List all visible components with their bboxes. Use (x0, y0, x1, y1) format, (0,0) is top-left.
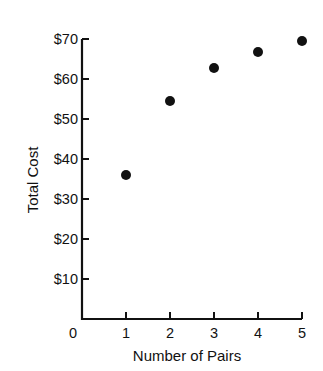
y-axis-title: Total Cost (24, 146, 41, 214)
data-point (297, 36, 307, 46)
y-tick-label: $20 (54, 231, 78, 247)
origin-label: 0 (69, 325, 77, 341)
data-points (121, 36, 307, 180)
y-tick-label: $30 (54, 191, 78, 207)
y-tick-label: $70 (54, 31, 78, 47)
x-axis-title: Number of Pairs (133, 347, 241, 364)
x-tick-label: 1 (122, 325, 130, 341)
scatter-chart: $10$20$30$40$50$60$70 12345 0 Number of … (0, 0, 323, 371)
x-tick-label: 4 (254, 325, 262, 341)
x-tick-label: 3 (210, 325, 218, 341)
y-tick-label: $10 (54, 271, 78, 287)
x-tick-label: 5 (298, 325, 306, 341)
x-tick-label: 2 (166, 325, 174, 341)
data-point (121, 170, 131, 180)
y-tick-label: $40 (54, 151, 78, 167)
axes (81, 39, 302, 320)
y-tick-label: $60 (54, 71, 78, 87)
data-point (209, 63, 219, 73)
data-point (253, 47, 263, 57)
y-ticks: $10$20$30$40$50$60$70 (54, 31, 89, 287)
data-point (165, 96, 175, 106)
x-ticks: 12345 (122, 312, 306, 341)
y-tick-label: $50 (54, 111, 78, 127)
